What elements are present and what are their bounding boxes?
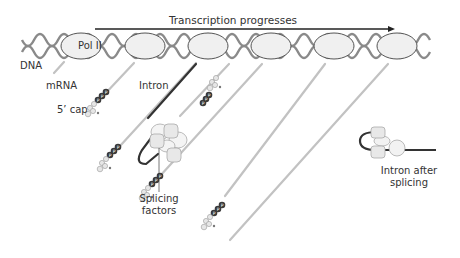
- intron-after-splicing: [360, 127, 436, 158]
- splicing-factors-label-1: Splicing: [139, 193, 178, 205]
- transcription-splicing-diagram: PPPPPPPPPPPPPPP: [0, 0, 460, 258]
- svg-text:P: P: [97, 98, 100, 103]
- progress-arrow: [95, 26, 395, 32]
- svg-text:P: P: [213, 211, 216, 216]
- svg-text:P: P: [159, 174, 162, 179]
- svg-text:P: P: [202, 101, 205, 106]
- svg-text:P: P: [155, 178, 158, 183]
- svg-text:P: P: [105, 90, 108, 95]
- five-prime-cap-label: 5’ cap: [57, 104, 88, 116]
- pol-ii-label: Pol II: [78, 40, 102, 52]
- mrna-label: mRNA: [46, 80, 77, 92]
- intron-after-splicing-label-1: Intron after: [381, 165, 437, 177]
- diagram-title: Transcription progresses: [169, 14, 297, 26]
- svg-text:P: P: [221, 203, 224, 208]
- svg-text:P: P: [217, 207, 220, 212]
- svg-text:P: P: [101, 94, 104, 99]
- mrna-strands: [54, 62, 388, 240]
- intron-after-splicing-label-2: splicing: [390, 177, 428, 189]
- svg-text:P: P: [151, 182, 154, 187]
- splicing-factors-label-2: factors: [142, 205, 177, 217]
- intron-label: Intron: [139, 80, 169, 92]
- dna-label: DNA: [20, 60, 42, 72]
- svg-text:P: P: [109, 153, 112, 158]
- svg-text:P: P: [117, 145, 120, 150]
- svg-text:P: P: [113, 149, 116, 154]
